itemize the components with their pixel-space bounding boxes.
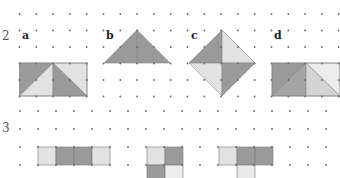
shape-3-t — [219, 147, 273, 178]
shape-3-block — [147, 147, 183, 178]
shape-2c — [189, 30, 255, 96]
shape-2d — [272, 63, 340, 96]
figure-canvas — [0, 0, 340, 178]
shape-3-row — [38, 147, 110, 165]
